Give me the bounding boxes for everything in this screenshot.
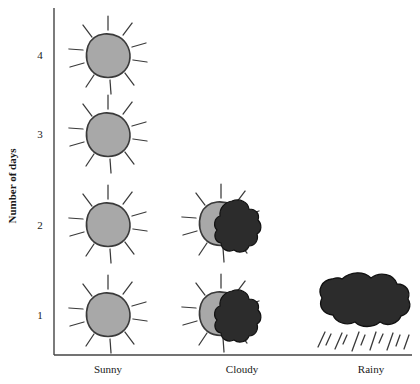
- cloud-icon: [215, 200, 261, 252]
- y-axis-title: Number of days: [6, 148, 18, 224]
- sun-icon: [69, 95, 147, 173]
- x-category-label-rainy: Rainy: [358, 363, 385, 375]
- chart-canvas: Number of days 1 2 3 4: [0, 0, 420, 384]
- cloud-icon: [215, 290, 261, 342]
- pictograph-column-cloudy: [182, 184, 261, 352]
- sun-behind-cloud-icon: [182, 184, 261, 262]
- x-category-label-cloudy: Cloudy: [226, 363, 259, 375]
- y-tick-label-1: 1: [37, 309, 43, 321]
- sun-icon: [69, 16, 147, 94]
- weather-pictograph-chart: Number of days 1 2 3 4: [0, 0, 420, 384]
- y-tick-label-2: 2: [37, 219, 43, 231]
- pictograph-column-sunny: [69, 16, 147, 353]
- sun-icon: [69, 185, 147, 263]
- y-tick-label-3: 3: [37, 128, 43, 140]
- x-category-label-sunny: Sunny: [94, 363, 123, 375]
- rain-cloud-icon: [318, 273, 410, 351]
- cloud-icon: [320, 273, 410, 327]
- sun-behind-cloud-icon: [182, 274, 261, 352]
- y-tick-label-4: 4: [37, 49, 43, 61]
- sun-icon: [69, 275, 147, 353]
- pictograph-column-rainy: [318, 273, 410, 351]
- rain-streaks-icon: [318, 332, 409, 351]
